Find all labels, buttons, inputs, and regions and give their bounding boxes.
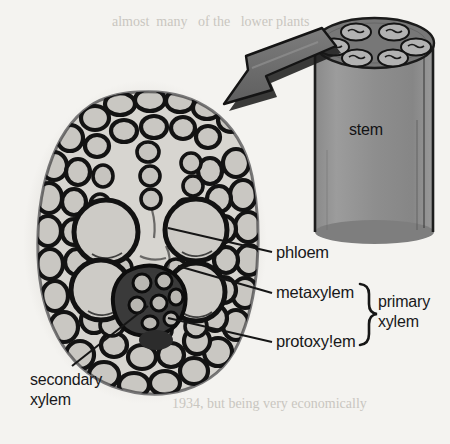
label-stem: stem (349, 122, 383, 139)
label-phloem: phloem (276, 244, 329, 261)
figure-canvas: almost many of the lower plants 1934, bu… (0, 0, 450, 444)
label-metaxylem: metaxylem (276, 284, 354, 301)
label-secondary-xylem: secondary xylem (30, 370, 102, 411)
vascular-bundle-micrograph (23, 80, 267, 408)
label-primary-xylem: primary xylem (378, 292, 430, 333)
primary-xylem-brace (360, 284, 377, 345)
label-protoxylem: protoxy!em (276, 333, 356, 350)
